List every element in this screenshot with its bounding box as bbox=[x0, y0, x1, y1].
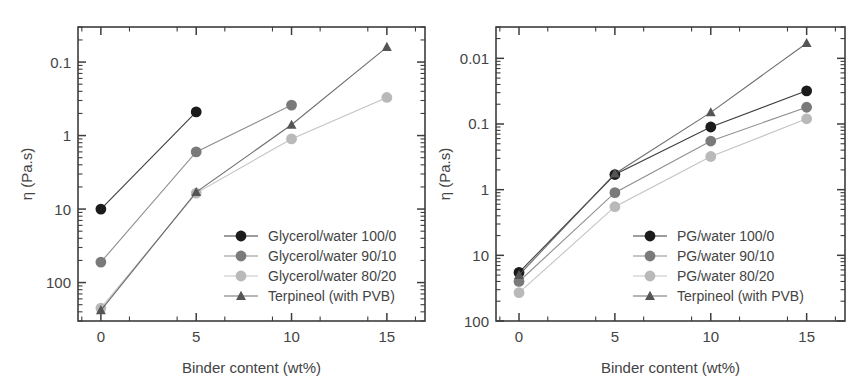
y-tick-label: 100 bbox=[464, 313, 489, 330]
x-tick-label: 15 bbox=[798, 328, 815, 345]
y-tick-label: 1 bbox=[481, 181, 489, 198]
data-point-0-3 bbox=[801, 85, 812, 96]
y-tick-label: 0.1 bbox=[468, 115, 489, 132]
x-tick-label: 15 bbox=[379, 328, 396, 345]
legend-label-2: Glycerol/water 80/20 bbox=[268, 268, 397, 284]
legend-label-3: Terpineol (with PVB) bbox=[268, 288, 395, 304]
data-point-2-0 bbox=[514, 287, 525, 298]
y-tick-label: 0.1 bbox=[50, 54, 71, 71]
data-point-3-3 bbox=[382, 42, 392, 51]
legend-label-2: PG/water 80/20 bbox=[677, 268, 774, 284]
legend-marker-circle-icon-2 bbox=[236, 271, 247, 282]
x-tick-label: 10 bbox=[702, 328, 719, 345]
data-point-1-0 bbox=[95, 257, 106, 268]
data-point-3-2 bbox=[287, 120, 297, 129]
legend-label-1: Glycerol/water 90/10 bbox=[268, 248, 397, 264]
data-point-2-1 bbox=[609, 201, 620, 212]
x-axis-title: Binder content (wt%) bbox=[601, 359, 740, 376]
data-point-1-1 bbox=[609, 187, 620, 198]
legend-entry-2: PG/water 80/20 bbox=[633, 268, 774, 284]
legend-label-0: Glycerol/water 100/0 bbox=[268, 228, 397, 244]
legend-label-1: PG/water 90/10 bbox=[677, 248, 774, 264]
plot-frame bbox=[496, 27, 845, 321]
y-tick-label: 0.01 bbox=[460, 50, 489, 67]
pg-water-panel: 1001010.10.01051015Binder content (wt%)η… bbox=[432, 0, 863, 383]
legend-entry-3: Terpineol (with PVB) bbox=[224, 288, 395, 304]
legend-entry-3: Terpineol (with PVB) bbox=[633, 288, 804, 304]
data-point-2-2 bbox=[705, 151, 716, 162]
data-point-3-2 bbox=[706, 107, 716, 116]
legend-marker-circle-icon-1 bbox=[645, 251, 656, 262]
legend-entry-1: Glycerol/water 90/10 bbox=[224, 248, 397, 264]
y-tick-label: 10 bbox=[472, 247, 489, 264]
series-line-2 bbox=[519, 119, 807, 293]
y-tick-label: 10 bbox=[54, 201, 71, 218]
legend-marker-triangle-icon-3 bbox=[645, 291, 655, 300]
data-point-2-3 bbox=[801, 113, 812, 124]
legend-entry-0: Glycerol/water 100/0 bbox=[224, 228, 397, 244]
data-point-1-2 bbox=[286, 100, 297, 111]
data-point-1-3 bbox=[801, 102, 812, 113]
figure-viscosity-vs-binder-content: 1001010.1051015Binder content (wt%)η (Pa… bbox=[0, 0, 863, 383]
pg-water-plot: 1001010.10.01051015Binder content (wt%)η… bbox=[432, 0, 863, 383]
x-tick-label: 0 bbox=[515, 328, 523, 345]
legend-marker-circle-icon-0 bbox=[236, 231, 247, 242]
data-point-1-1 bbox=[191, 146, 202, 157]
x-axis-title: Binder content (wt%) bbox=[182, 359, 321, 376]
x-tick-label: 5 bbox=[192, 328, 200, 345]
legend-label-0: PG/water 100/0 bbox=[677, 228, 774, 244]
legend-marker-triangle-icon-3 bbox=[236, 291, 246, 300]
legend-marker-circle-icon-1 bbox=[236, 251, 247, 262]
y-axis-title: η (Pa.s) bbox=[18, 148, 35, 201]
glycerol-water-plot: 1001010.1051015Binder content (wt%)η (Pa… bbox=[0, 0, 432, 383]
legend-entry-0: PG/water 100/0 bbox=[633, 228, 774, 244]
legend-entry-1: PG/water 90/10 bbox=[633, 248, 774, 264]
series-line-0 bbox=[101, 112, 196, 209]
glycerol-water-panel: 1001010.1051015Binder content (wt%)η (Pa… bbox=[0, 0, 432, 383]
data-point-2-2 bbox=[286, 134, 297, 145]
series-line-1 bbox=[101, 105, 292, 262]
y-axis-title: η (Pa.s) bbox=[436, 148, 453, 201]
legend-entry-2: Glycerol/water 80/20 bbox=[224, 268, 397, 284]
x-tick-label: 5 bbox=[611, 328, 619, 345]
y-tick-label: 1 bbox=[63, 127, 71, 144]
y-tick-label: 100 bbox=[46, 274, 71, 291]
data-point-2-3 bbox=[381, 92, 392, 103]
legend-label-3: Terpineol (with PVB) bbox=[677, 288, 804, 304]
data-point-3-3 bbox=[802, 38, 812, 47]
data-point-0-0 bbox=[95, 204, 106, 215]
data-point-0-1 bbox=[191, 106, 202, 117]
x-tick-label: 0 bbox=[97, 328, 105, 345]
legend-marker-circle-icon-0 bbox=[645, 231, 656, 242]
data-point-0-2 bbox=[705, 122, 716, 133]
x-tick-label: 10 bbox=[283, 328, 300, 345]
legend-marker-circle-icon-2 bbox=[645, 271, 656, 282]
data-point-1-2 bbox=[705, 136, 716, 147]
